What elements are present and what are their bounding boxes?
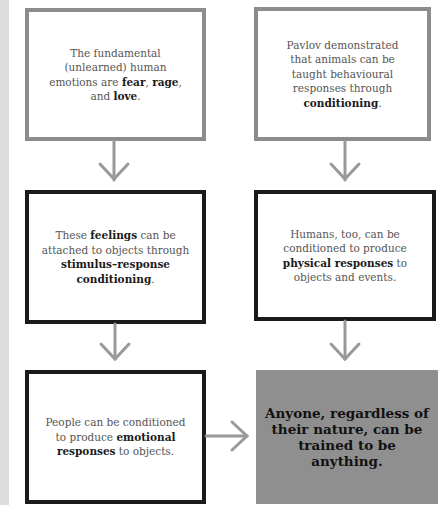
arrow-down-icon bbox=[331, 141, 359, 180]
arrow-down-icon bbox=[100, 141, 128, 180]
arrow-down-icon bbox=[101, 324, 129, 359]
arrows-layer bbox=[0, 0, 441, 512]
arrow-right-icon bbox=[206, 422, 247, 450]
arrow-down-icon bbox=[331, 321, 359, 359]
